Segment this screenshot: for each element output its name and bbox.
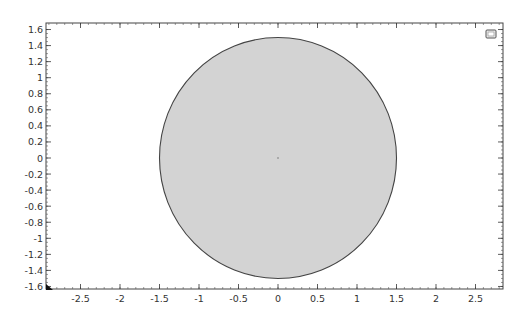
x-tick-label: -2 xyxy=(115,293,124,304)
y-tick-label: -1.2 xyxy=(24,249,43,260)
y-tick-label: -1 xyxy=(34,233,43,244)
y-tick-label: 0.2 xyxy=(28,136,43,147)
y-tick-label: 0.8 xyxy=(28,88,43,99)
x-tick-label: -2.5 xyxy=(71,293,90,304)
y-tick-label: -1.6 xyxy=(24,281,43,292)
x-tick-label: 1.5 xyxy=(389,293,404,304)
x-tick-label: -1 xyxy=(194,293,203,304)
y-tick-label: 1.6 xyxy=(28,24,43,35)
y-tick-label: 1.2 xyxy=(28,56,43,67)
x-tick-label: 0 xyxy=(275,293,281,304)
y-tick-label: -0.6 xyxy=(24,201,43,212)
x-tick-label: 2 xyxy=(433,293,439,304)
graphics-canvas[interactable]: -2.5-2-1.5-1-0.500.511.522.5 1.61.41.210… xyxy=(0,0,529,322)
y-tick-label: -0.2 xyxy=(24,169,43,180)
window-restore-icon[interactable] xyxy=(486,30,496,38)
x-tick-label: 0.5 xyxy=(310,293,325,304)
y-tick-label: -1.4 xyxy=(24,265,43,276)
x-tick-label: 1 xyxy=(354,293,360,304)
origin-point xyxy=(277,157,279,159)
y-tick-label: -0.4 xyxy=(24,185,43,196)
plot-area[interactable] xyxy=(46,23,503,289)
y-tick-label: 0.6 xyxy=(28,104,43,115)
y-tick-label: -0.8 xyxy=(24,217,43,228)
y-tick-label: 0 xyxy=(37,153,43,164)
y-tick-label: 0.4 xyxy=(28,120,43,131)
y-tick-label: 1.4 xyxy=(28,40,43,51)
x-tick-label: -1.5 xyxy=(150,293,169,304)
x-tick-label: -0.5 xyxy=(229,293,248,304)
x-tick-label: 2.5 xyxy=(468,293,483,304)
y-tick-label: 1 xyxy=(37,72,43,83)
